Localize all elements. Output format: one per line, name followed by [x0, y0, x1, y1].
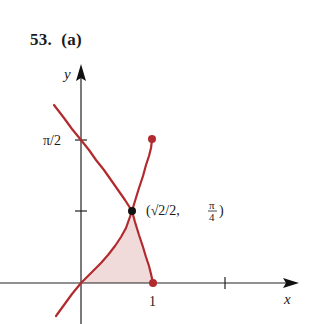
y-axis-label: y: [62, 66, 71, 82]
intersection-point: [128, 207, 136, 215]
graph: y x 1 π/2 (√2/2, π 4 ): [0, 0, 315, 324]
intersection-label-main: (√2/2,: [146, 203, 180, 219]
y-tick-label-pi-over-2: π/2: [43, 133, 61, 148]
intersection-label: (√2/2,: [146, 203, 180, 219]
intersection-frac-den: 4: [209, 211, 215, 223]
x-axis-label: x: [283, 291, 291, 307]
endpoint-top: [148, 135, 156, 143]
intersection-frac-num: π: [209, 199, 215, 211]
endpoint-bottom: [149, 279, 157, 287]
x-tick-label-1: 1: [149, 294, 156, 309]
intersection-label-close: ): [219, 203, 224, 219]
